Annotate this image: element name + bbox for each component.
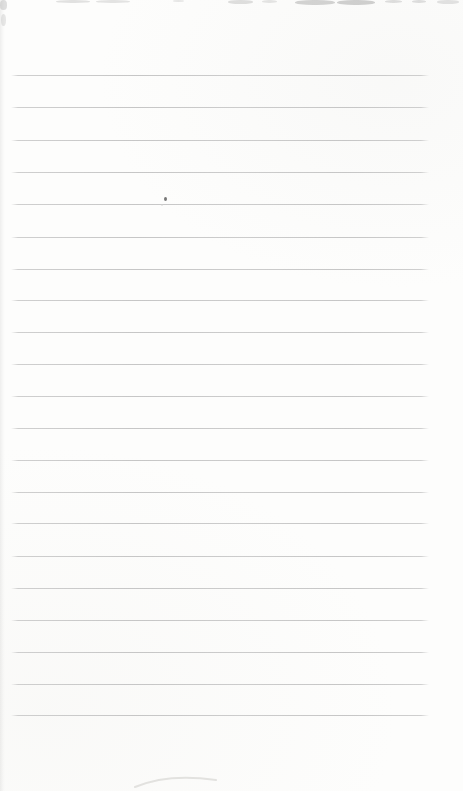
scan-artifact	[295, 0, 335, 5]
scan-artifact	[96, 0, 130, 3]
ruled-line	[11, 460, 429, 461]
ruled-line	[11, 396, 429, 397]
ruled-line	[11, 107, 429, 108]
ruled-line	[11, 523, 429, 524]
ruled-line	[11, 140, 429, 141]
page-edge-shadow	[0, 0, 5, 791]
ruled-line	[11, 269, 429, 270]
ruled-line	[11, 620, 429, 621]
ruled-line	[11, 588, 429, 589]
scan-artifact	[228, 0, 253, 4]
scan-artifact	[262, 0, 277, 3]
ruled-line	[11, 204, 429, 205]
faint-speck	[161, 204, 163, 206]
ruled-line	[11, 652, 429, 653]
bottom-smudge-path	[135, 778, 216, 787]
scan-artifact	[437, 0, 459, 4]
ruled-line	[11, 364, 429, 365]
ruled-line	[11, 492, 429, 493]
scan-artifact	[412, 0, 426, 3]
ruled-line	[11, 172, 429, 173]
ruled-line	[11, 75, 429, 76]
scan-artifact	[0, 0, 7, 10]
ruled-line	[11, 300, 429, 301]
ruled-line	[11, 237, 429, 238]
paper-page	[0, 0, 463, 791]
scan-artifact	[173, 0, 184, 2]
scan-artifact	[385, 0, 402, 3]
ruled-line	[11, 715, 429, 716]
ruled-line	[11, 684, 429, 685]
ruled-line	[11, 332, 429, 333]
ink-speck	[164, 197, 167, 201]
ruled-line	[11, 428, 429, 429]
scan-artifact	[1, 14, 6, 26]
scan-artifact	[56, 0, 90, 3]
bottom-smudge-mark	[128, 766, 226, 791]
scan-artifact	[337, 0, 375, 5]
ruled-line	[11, 556, 429, 557]
